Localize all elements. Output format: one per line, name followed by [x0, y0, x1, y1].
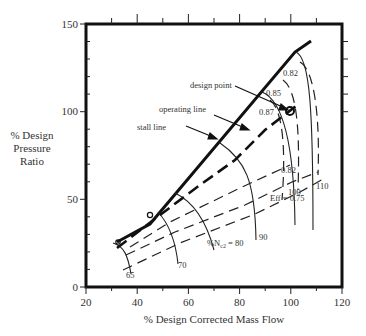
stall-line [117, 41, 311, 242]
svg-text:Pressure: Pressure [13, 142, 50, 154]
svg-text:120: 120 [334, 296, 351, 308]
compressor-map-chart: 150 100 50 0 20 40 60 80 100 120 % Desig… [0, 0, 366, 336]
svg-text:90: 90 [259, 232, 268, 242]
svg-text:100: 100 [283, 296, 300, 308]
svg-text:0.82: 0.82 [283, 68, 298, 78]
svg-text:65: 65 [126, 270, 135, 280]
svg-text:110: 110 [316, 181, 328, 191]
point-marker-70 [147, 212, 152, 217]
svg-text:% Design: % Design [10, 129, 54, 141]
svg-text:100: 100 [62, 105, 79, 117]
x-axis-title: % Design Corrected Mass Flow [144, 313, 285, 325]
svg-text:60: 60 [183, 296, 195, 308]
svg-text:40: 40 [132, 296, 144, 308]
svg-text:80: 80 [234, 296, 246, 308]
svg-text:50: 50 [67, 193, 79, 205]
svg-text:0: 0 [73, 281, 79, 293]
operating-line-label: operating line [159, 104, 206, 114]
svg-text:20: 20 [81, 296, 93, 308]
svg-text:0.87: 0.87 [259, 107, 274, 117]
svg-text:100: 100 [288, 187, 301, 197]
svg-text:0.82: 0.82 [281, 165, 296, 175]
svg-text:Ratio: Ratio [20, 155, 44, 167]
y-axis-title: % Design Pressure Ratio [10, 129, 54, 167]
x-tick-labels: 20 40 60 80 100 120 [81, 296, 351, 308]
eff-082-outer [300, 62, 318, 175]
svg-text:70: 70 [178, 260, 187, 270]
svg-text:150: 150 [62, 18, 79, 30]
y-tick-labels: 150 100 50 0 [62, 18, 79, 293]
design-point-label: design point [190, 80, 232, 90]
svg-text:%Nc2 = 80: %Nc2 = 80 [207, 238, 243, 249]
stall-line-label: stall line [137, 122, 166, 132]
svg-text:0.85: 0.85 [266, 88, 281, 98]
